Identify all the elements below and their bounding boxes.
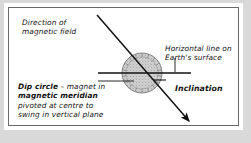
figure-canvas: Direction of magnetic field Horizontal l… [0, 0, 251, 143]
label-horizontal-line-1: Horizontal line on [165, 44, 232, 53]
label-magnetic-field-direction: Direction of magnetic field [22, 18, 76, 37]
label-dip-line-4: swing in vertical plane [18, 110, 103, 119]
label-dip-circle: Dip circle – magnet in magnetic meridian… [18, 82, 105, 119]
label-inclination: Inclination [175, 84, 223, 93]
label-field-line-2: magnetic field [22, 27, 76, 36]
label-dip-bold-1: Dip circle [18, 82, 58, 91]
label-horizontal-line-2: Earth's surface [165, 53, 222, 62]
label-dip-line-3: pivoted at centre to [18, 101, 93, 110]
label-field-line-1: Direction of [22, 18, 66, 27]
figure-frame: Direction of magnetic field Horizontal l… [8, 7, 239, 126]
label-dip-bold-2: magnetic meridian [18, 91, 98, 100]
label-dip-dash: – magnet in [58, 82, 105, 91]
label-horizontal-line: Horizontal line on Earth's surface [165, 44, 232, 63]
